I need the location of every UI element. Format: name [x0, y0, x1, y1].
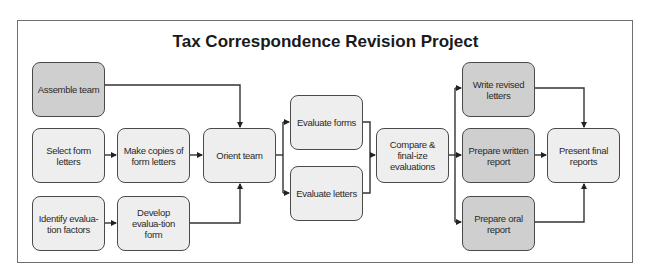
node-label: Write revised letters [467, 79, 530, 101]
node-develop-form: Develop evalua-tion form [117, 196, 190, 251]
node-label: Select form letters [37, 145, 100, 167]
node-prepare-oral: Prepare oral report [462, 196, 535, 251]
node-evaluate-letters: Evaluate letters [290, 166, 363, 221]
node-label: Prepare written report [467, 145, 530, 167]
node-write-revised: Write revised letters [462, 62, 535, 117]
node-compare-finalize: Compare & final-ize evaluations [376, 128, 449, 183]
node-label: Prepare oral report [467, 213, 530, 235]
node-prepare-written: Prepare written report [462, 128, 535, 183]
node-present-final: Present final reports [547, 128, 620, 183]
node-label: Make copies of form letters [122, 145, 185, 167]
node-label: Evaluate letters [296, 188, 357, 199]
node-label: Develop evalua-tion form [122, 207, 185, 240]
node-label: Orient team [216, 150, 262, 161]
node-label: Present final reports [552, 145, 615, 167]
node-evaluate-forms: Evaluate forms [290, 95, 363, 150]
node-orient-team: Orient team [203, 128, 276, 183]
node-label: Assemble team [38, 84, 100, 95]
node-label: Compare & final-ize evaluations [381, 139, 444, 172]
node-select-form-letters: Select form letters [32, 128, 105, 183]
node-label: Identify evalua-tion factors [37, 213, 100, 235]
node-assemble-team: Assemble team [32, 62, 105, 117]
node-identify-factors: Identify evalua-tion factors [32, 196, 105, 251]
node-label: Evaluate forms [297, 117, 356, 128]
node-make-copies: Make copies of form letters [117, 128, 190, 183]
